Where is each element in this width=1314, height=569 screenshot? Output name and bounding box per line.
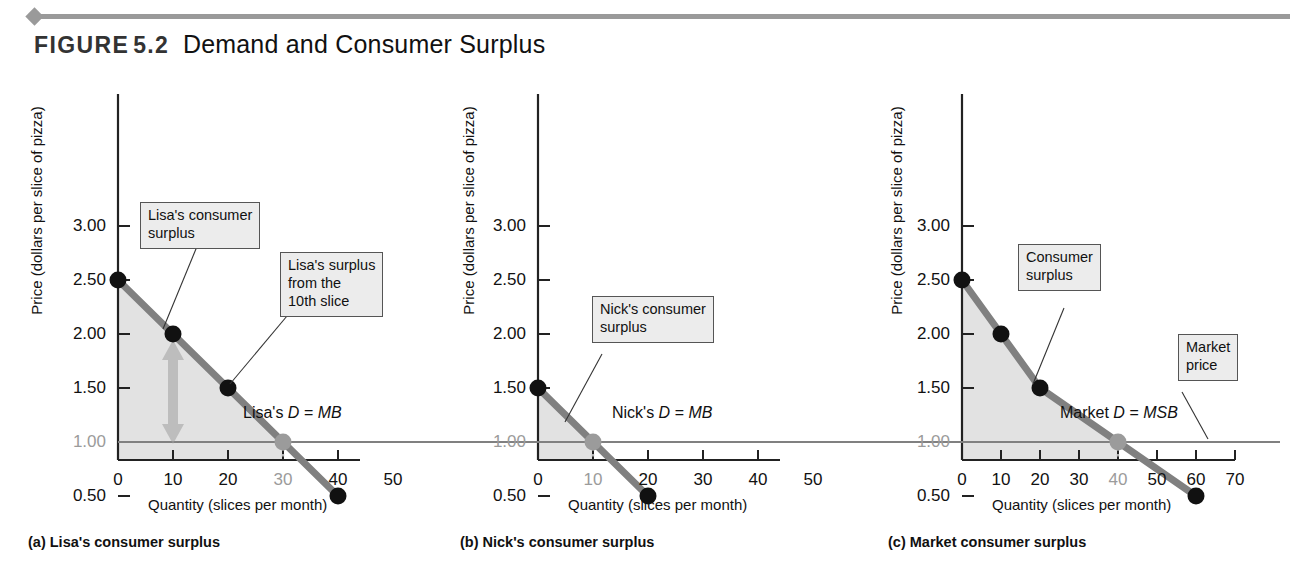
- demand-curve-label: Nick's D = MB: [612, 404, 712, 422]
- panel-caption-a: (a) Lisa's consumer surplus: [28, 534, 220, 550]
- callout-line: surplus: [600, 319, 706, 337]
- callout-tenth-slice-surplus: Lisa's surplus from the 10th slice: [280, 252, 383, 317]
- x-tick-label: 30: [1059, 470, 1099, 490]
- y-tick-label: 2.00: [896, 324, 950, 344]
- y-tick-label: 1.50: [896, 378, 950, 398]
- x-tick-label: 10: [153, 470, 193, 490]
- x-tick-label-equilibrium: 40: [1098, 470, 1138, 490]
- callout-line: 10th slice: [288, 293, 375, 311]
- curve-label-italic: D = MB: [288, 404, 342, 421]
- y-tick-label: 1.50: [52, 378, 106, 398]
- y-tick-label: 3.00: [52, 216, 106, 236]
- callout-leader: [565, 354, 602, 422]
- panel-nick: Price (dollars per slice of pizza) 3.00: [432, 84, 892, 514]
- x-tick-label: 20: [208, 470, 248, 490]
- y-tick-label: 2.50: [896, 270, 950, 290]
- callout-line: Lisa's consumer: [148, 207, 252, 225]
- y-tick-label: 2.00: [52, 324, 106, 344]
- data-point: [220, 380, 237, 397]
- shaded-surplus-lower: [118, 442, 283, 459]
- callout-consumer-surplus: Consumer surplus: [1018, 244, 1101, 291]
- callout-line: Market: [1186, 339, 1230, 357]
- callout-market-price: Market price: [1178, 334, 1238, 381]
- demand-curve-label: Lisa's D = MB: [243, 404, 342, 422]
- panel-lisa: Price (dollars per slice of pizza): [0, 84, 460, 514]
- callout-consumer-surplus: Lisa's consumer surplus: [140, 202, 260, 249]
- figure-top-rule: [28, 8, 1290, 26]
- callout-line: surplus: [148, 225, 252, 243]
- figure-heading: FIGURE5.2Demand and Consumer Surplus: [34, 30, 545, 59]
- data-point: [954, 272, 971, 289]
- x-tick-label: 20: [628, 470, 668, 490]
- y-tick-label: 2.00: [472, 324, 526, 344]
- x-tick-label: 50: [373, 470, 413, 490]
- data-point: [330, 488, 347, 505]
- panel-caption-b: (b) Nick's consumer surplus: [460, 534, 654, 550]
- x-tick-label: 60: [1176, 470, 1216, 490]
- figure-label: FIGURE: [34, 32, 129, 58]
- y-tick-label: 1.50: [472, 378, 526, 398]
- x-tick-label: 0: [98, 470, 138, 490]
- callout-leader: [230, 316, 287, 384]
- callout-line: from the: [288, 275, 375, 293]
- data-point: [1188, 488, 1205, 505]
- callout-line: Nick's consumer: [600, 301, 706, 319]
- horizontal-rule: [39, 14, 1290, 19]
- y-tick-label-market: 1.00: [896, 432, 950, 452]
- y-tick-label-market: 1.00: [52, 432, 106, 452]
- callout-leader: [1182, 392, 1208, 439]
- panel-market: Price (dollars per slice of pizza): [860, 84, 1314, 514]
- x-tick-label: 70: [1215, 470, 1255, 490]
- panel-caption-c: (c) Market consumer surplus: [888, 534, 1086, 550]
- curve-label-plain: Lisa's: [243, 404, 288, 421]
- data-point: [993, 326, 1010, 343]
- x-axis-label: Quantity (slices per month): [148, 496, 327, 513]
- data-point: [530, 380, 547, 397]
- x-tick-label: 10: [981, 470, 1021, 490]
- curve-label-italic: D = MSB: [1113, 404, 1177, 421]
- y-tick-label: 3.00: [896, 216, 950, 236]
- y-tick-label: 2.50: [52, 270, 106, 290]
- x-tick-label: 0: [518, 470, 558, 490]
- x-tick-label: 50: [793, 470, 833, 490]
- x-tick-label: 40: [738, 470, 778, 490]
- callout-leader: [163, 244, 198, 329]
- data-point: [165, 326, 182, 343]
- x-tick-label: 40: [318, 470, 358, 490]
- data-point-equilibrium: [585, 434, 602, 451]
- data-point-equilibrium: [275, 434, 292, 451]
- y-tick-label-market: 1.00: [472, 432, 526, 452]
- x-tick-label-equilibrium: 30: [263, 470, 303, 490]
- x-tick-label-equilibrium: 10: [573, 470, 613, 490]
- x-tick-label: 0: [942, 470, 982, 490]
- demand-curve-label: Market D = MSB: [1060, 404, 1178, 422]
- x-axis-label: Quantity (slices per month): [992, 496, 1171, 513]
- callout-line: Lisa's surplus: [288, 257, 375, 275]
- x-tick-label: 50: [1137, 470, 1177, 490]
- callout-leader: [1033, 308, 1064, 384]
- curve-label-italic: D = MB: [659, 404, 713, 421]
- figure-title: Demand and Consumer Surplus: [183, 30, 546, 58]
- x-tick-label: 20: [1020, 470, 1060, 490]
- curve-label-plain: Market: [1060, 404, 1113, 421]
- x-tick-label: 30: [683, 470, 723, 490]
- callout-line: Consumer: [1026, 249, 1093, 267]
- x-axis-label: Quantity (slices per month): [568, 496, 747, 513]
- callout-line: surplus: [1026, 267, 1093, 285]
- curve-label-plain: Nick's: [612, 404, 659, 421]
- figure-number: 5.2: [133, 32, 169, 58]
- callout-line: price: [1186, 357, 1230, 375]
- data-point: [110, 272, 127, 289]
- y-tick-label: 2.50: [472, 270, 526, 290]
- data-point-equilibrium: [1110, 434, 1127, 451]
- y-tick-label: 3.00: [472, 216, 526, 236]
- callout-consumer-surplus: Nick's consumer surplus: [592, 296, 714, 343]
